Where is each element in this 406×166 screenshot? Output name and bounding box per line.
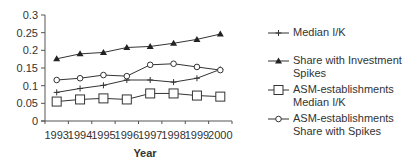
square-marker-icon xyxy=(192,91,201,100)
circle-marker-icon xyxy=(101,72,107,78)
x-tick-label: 2000 xyxy=(208,129,232,141)
legend-plus-icon xyxy=(276,30,282,36)
plus-marker-icon xyxy=(77,85,83,91)
square-marker-icon xyxy=(76,95,85,104)
y-tick-label: 0.2 xyxy=(23,44,38,56)
circle-marker-icon xyxy=(124,73,130,79)
x-tick-label: 1996 xyxy=(115,129,139,141)
legend-circle-icon xyxy=(276,116,282,122)
y-tick-label: 0.15 xyxy=(17,62,38,74)
plus-marker-icon xyxy=(100,82,106,88)
triangle-marker-icon xyxy=(217,31,224,37)
square-marker-icon xyxy=(52,97,61,106)
circle-marker-icon xyxy=(171,61,177,67)
legend: Median I/KShare with InvestmentSpikesASM… xyxy=(268,26,402,137)
y-tick-label: 0.3 xyxy=(23,9,38,21)
y-tick-label: 0.1 xyxy=(23,80,38,92)
x-tick-label: 1998 xyxy=(161,129,185,141)
square-marker-icon xyxy=(146,89,155,98)
plus-marker-icon xyxy=(147,77,153,83)
legend-label: Median I/K xyxy=(293,96,346,108)
legend-label: ASM-establishments xyxy=(293,83,394,95)
square-marker-icon xyxy=(99,94,108,103)
circle-marker-icon xyxy=(218,67,224,73)
square-marker-icon xyxy=(216,92,225,101)
legend-label: Median I/K xyxy=(293,26,346,38)
line-chart: 00.050.10.150.20.250.3 19931994199519961… xyxy=(0,0,406,166)
y-tick-label: 0.05 xyxy=(17,97,38,109)
legend-item: ASM-establishmentsMedian I/K xyxy=(268,83,394,108)
circle-marker-icon xyxy=(147,62,153,68)
y-axis: 00.050.10.150.20.250.3 xyxy=(17,9,45,127)
legend-item: Median I/K xyxy=(268,26,346,38)
circle-marker-icon xyxy=(194,64,200,70)
x-tick-label: 1994 xyxy=(68,129,92,141)
plus-marker-icon xyxy=(171,79,177,85)
legend-label: ASM-establishments xyxy=(293,112,394,124)
x-tick-label: 1997 xyxy=(138,129,162,141)
y-tick-label: 0 xyxy=(32,115,38,127)
y-tick-label: 0.25 xyxy=(17,27,38,39)
circle-marker-icon xyxy=(54,77,60,83)
plus-marker-icon xyxy=(194,75,200,81)
series-triangle xyxy=(53,31,224,62)
plus-marker-icon xyxy=(54,89,60,95)
square-marker-icon xyxy=(122,95,131,104)
legend-label: Spikes xyxy=(293,67,327,79)
x-tick-label: 1993 xyxy=(44,129,68,141)
x-axis-title: Year xyxy=(133,147,157,159)
plot-area xyxy=(52,31,225,106)
legend-item: Share with InvestmentSpikes xyxy=(268,54,402,79)
series-square xyxy=(52,89,225,106)
circle-marker-icon xyxy=(77,75,83,81)
legend-label: Share with Investment xyxy=(293,54,402,66)
x-axis: 19931994199519961997199819992000 xyxy=(41,121,233,141)
legend-label: Share with Spikes xyxy=(293,125,382,137)
x-tick-label: 1995 xyxy=(91,129,115,141)
square-marker-icon xyxy=(169,89,178,98)
x-tick-label: 1999 xyxy=(185,129,209,141)
legend-item: ASM-establishmentsShare with Spikes xyxy=(268,112,394,137)
legend-square-icon xyxy=(274,86,283,95)
chart-canvas: 00.050.10.150.20.250.3 19931994199519961… xyxy=(0,0,406,166)
